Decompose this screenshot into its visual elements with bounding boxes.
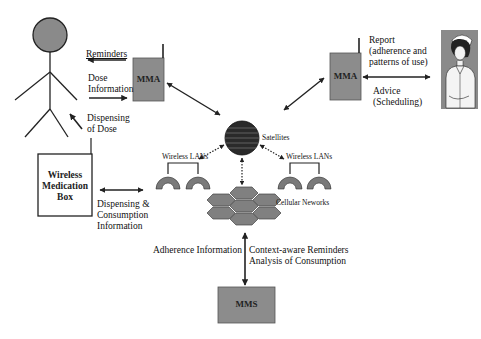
adherence-information-label: Adherence Information	[153, 245, 242, 256]
advice-line2: (Scheduling)	[373, 97, 422, 108]
dispensing-of-dose-label: Dispensing of Dose	[87, 113, 130, 135]
mma-left-label: MMA	[133, 74, 164, 84]
mma-right-label: MMA	[330, 71, 361, 81]
medication-box-line1: Wireless	[38, 170, 92, 181]
medication-box-line2: Medication	[38, 181, 92, 192]
dispensing-consumption-line3: Information	[97, 221, 150, 232]
dose-information-label: Dose Information	[88, 73, 133, 95]
advice-label: Advice (Scheduling)	[373, 86, 422, 108]
wireless-lans-left-label: Wireless LANs	[162, 152, 208, 161]
medication-box-line3: Box	[38, 192, 92, 203]
mms-label: MMS	[218, 299, 275, 309]
context-aware-line1: Context-aware Reminders	[249, 245, 348, 256]
wireless-lan-icon	[278, 163, 331, 189]
mma-left-device	[133, 44, 164, 101]
satellites-label: Satellites	[262, 133, 290, 142]
report-label: Report (adherence and patterns of use)	[369, 35, 428, 68]
dispensing-of-dose-line1: Dispensing	[87, 113, 130, 124]
dose-information-line2: Information	[88, 84, 133, 95]
dispensing-consumption-line1: Dispensing &	[97, 199, 150, 210]
context-aware-line2: Analysis of Consumption	[249, 256, 348, 267]
report-line1: Report	[369, 35, 428, 46]
wireless-lan-icon	[156, 163, 210, 189]
medication-box-label: Wireless Medication Box	[38, 170, 92, 203]
nurse-portrait-icon	[441, 30, 478, 109]
mma-right-satellite-link	[284, 78, 324, 110]
report-line2: (adherence and	[369, 46, 428, 57]
dispensing-of-dose-line2: of Dose	[87, 124, 130, 135]
wireless-lans-right-label: Wireless LANs	[286, 152, 332, 161]
dispensing-consumption-line2: Consumption	[97, 210, 150, 221]
report-line3: patterns of use)	[369, 57, 428, 68]
satellite-lan-right-link	[260, 145, 284, 159]
medication-monitoring-diagram: MMA MMA MMS Wireless Medication Box Remi…	[0, 0, 481, 339]
dose-information-line1: Dose	[88, 73, 133, 84]
dispensing-consumption-label: Dispensing & Consumption Information	[97, 199, 150, 232]
context-aware-label: Context-aware Reminders Analysis of Cons…	[249, 245, 348, 267]
globe-icon	[225, 121, 259, 155]
cellular-networks-label: Cellular Neworks	[276, 198, 329, 207]
mma-right-device	[330, 38, 361, 100]
mma-left-satellite-link	[167, 83, 220, 115]
advice-line1: Advice	[373, 86, 422, 97]
hexagon-cells-icon	[207, 187, 281, 225]
stick-figure-icon	[15, 18, 77, 137]
reminders-label: Reminders	[86, 49, 127, 60]
